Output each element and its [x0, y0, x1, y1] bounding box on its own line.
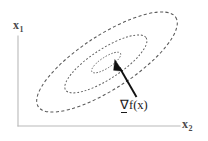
- nabla-glyph: ∇: [120, 98, 129, 112]
- inner-contour: [89, 49, 124, 77]
- axes-group: [18, 36, 180, 126]
- contour-plot-figure: x1 x2 ∇f(x): [0, 0, 208, 141]
- contour-group: [24, 0, 191, 129]
- x2-axis-label-main: x: [182, 117, 188, 131]
- x2-axis-label-subscript: 2: [189, 124, 193, 133]
- gradient-label-text: f(x): [129, 98, 148, 112]
- x1-axis-label-subscript: 1: [20, 25, 24, 34]
- middle-contour: [57, 25, 154, 102]
- x2-axis-label: x2: [182, 118, 192, 130]
- outer-contour: [24, 0, 191, 129]
- gradient-arrow-head: [114, 60, 123, 72]
- gradient-label: ∇f(x): [120, 99, 148, 113]
- nabla-underbar: [121, 112, 127, 113]
- gradient-arrow-shaft: [120, 68, 137, 98]
- x1-axis-label-main: x: [13, 18, 19, 32]
- figure-canvas: [0, 0, 208, 141]
- x1-axis-label: x1: [13, 19, 23, 31]
- nabla-icon: ∇: [120, 99, 129, 113]
- gradient-vector: [114, 60, 137, 98]
